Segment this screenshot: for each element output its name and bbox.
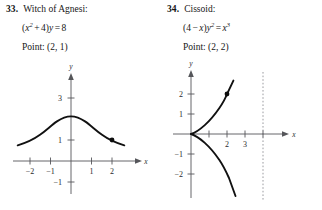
point-value: (2, 2) <box>208 42 229 52</box>
x-ticklabel-neg1: −1 <box>46 167 55 176</box>
problem-34-title: Cissoid: <box>184 4 215 14</box>
plotted-point-2-1 <box>110 138 115 143</box>
textbook-exercise-page: 33. Witch of Agnesi: (x2+4)y=8 Point: (2… <box>0 0 322 210</box>
y-ticklabel-2: 2 <box>179 90 183 99</box>
problem-34: 34. Cissoid: (4−x)y2=x3 Point: (2, 2) <box>161 0 322 210</box>
y-axis-label: y <box>68 62 73 71</box>
problem-33-number: 33. <box>6 4 18 14</box>
x-axis-label: x <box>291 130 296 139</box>
problem-34-equation: (4−x)y2=x3 <box>183 23 230 33</box>
problem-34-heading: 34. Cissoid: <box>167 4 319 14</box>
x-ticklabel-2: 2 <box>110 167 114 176</box>
point-value: (2, 1) <box>47 42 68 52</box>
x-ticklabel-2: 2 <box>225 140 229 149</box>
y-axis-label: y <box>188 59 193 68</box>
cissoid-plot: 2 3 2 1 −1 −2 x y <box>161 58 322 206</box>
plotted-point-2-2 <box>225 92 230 97</box>
exponent-3: 3 <box>227 21 230 28</box>
problem-33-point: Point: (2, 1) <box>22 42 68 52</box>
operator-equals: = <box>214 23 222 33</box>
y-ticklabel-3: 3 <box>58 94 62 103</box>
x-axis-arrowhead <box>282 131 289 137</box>
x-axis-label: x <box>143 157 148 166</box>
y-ticklabel-1: 1 <box>179 110 183 119</box>
problem-34-number: 34. <box>167 4 179 14</box>
y-ticklabel-neg1: −1 <box>53 178 62 187</box>
problem-33: 33. Witch of Agnesi: (x2+4)y=8 Point: (2… <box>0 0 161 210</box>
cissoid-upper-branch <box>191 81 233 134</box>
operator-plus: + <box>33 23 41 33</box>
problem-34-point: Point: (2, 2) <box>183 42 229 52</box>
x-ticklabel-3: 3 <box>243 140 247 149</box>
problem-34-graph: 2 3 2 1 −1 −2 x y <box>161 58 322 206</box>
x-axis-arrowhead <box>135 158 142 164</box>
problem-33-heading: 33. Witch of Agnesi: <box>6 4 158 14</box>
operator-equals: = <box>53 23 61 33</box>
point-label: Point: <box>22 42 45 52</box>
problem-33-title: Witch of Agnesi: <box>23 4 88 14</box>
problem-33-equation: (x2+4)y=8 <box>22 23 66 33</box>
witch-of-agnesi-plot: −2 −1 1 2 3 1 −1 x y <box>0 58 161 206</box>
constant-8: 8 <box>62 23 67 33</box>
x-ticklabel-neg2: −2 <box>26 167 35 176</box>
point-label: Point: <box>183 42 206 52</box>
y-axis-arrowhead <box>68 73 74 80</box>
y-ticklabel-neg2: −2 <box>174 170 183 179</box>
y-ticklabel-neg1: −1 <box>174 150 183 159</box>
y-axis-arrowhead <box>188 70 194 77</box>
y-ticklabel-1: 1 <box>58 136 62 145</box>
x-ticklabel-1: 1 <box>90 167 94 176</box>
problem-33-graph: −2 −1 1 2 3 1 −1 x y <box>0 58 161 206</box>
